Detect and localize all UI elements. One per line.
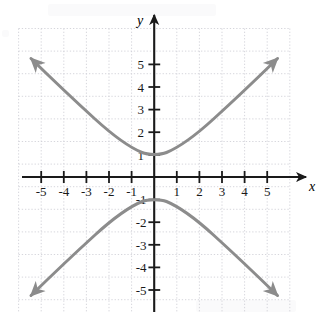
coordinate-plane: -5 -4 -3 -2 -1 1 2 3 4 5 5 4 3 2 1 -1 -2…: [0, 0, 327, 334]
graph-figure: -5 -4 -3 -2 -1 1 2 3 4 5 5 4 3 2 1 -1 -2…: [0, 0, 327, 334]
y-tick-label: 3: [138, 102, 145, 117]
x-tick-label: 5: [264, 184, 271, 199]
x-tick-label: 3: [219, 184, 226, 199]
x-tick-label: -3: [81, 184, 92, 199]
x-tick-label: 2: [196, 184, 203, 199]
y-tick-label: -5: [136, 283, 147, 298]
x-axis-label: x: [308, 179, 316, 194]
y-tick-label: 2: [138, 125, 145, 140]
x-tick-label: -4: [58, 184, 69, 199]
y-tick-label: 4: [138, 80, 145, 95]
y-tick-label: -3: [136, 238, 147, 253]
x-tick-label: -5: [36, 184, 47, 199]
y-tick-label: -2: [136, 215, 147, 230]
y-axis-label: y: [135, 13, 144, 28]
x-tick-label: 4: [241, 184, 248, 199]
y-tick-label: -4: [136, 260, 147, 275]
x-tick-labels: -5 -4 -3 -2 -1 1 2 3 4 5: [36, 184, 271, 199]
axes: [22, 15, 306, 312]
x-tick-label: -2: [104, 184, 115, 199]
y-tick-label: 5: [138, 57, 145, 72]
x-tick-label: 1: [174, 184, 181, 199]
